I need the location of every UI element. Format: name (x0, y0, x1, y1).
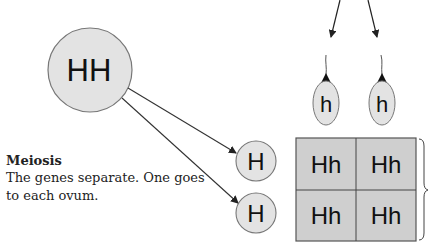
punnett-square: Hh Hh Hh Hh (296, 138, 416, 241)
ovum-allele: H (247, 200, 264, 227)
caption: Meiosis The genes separate. One goes to … (6, 153, 206, 205)
arrow-to-sperm-left (331, 0, 340, 37)
ovum-allele: H (247, 148, 264, 175)
parent-genotype: HH (67, 53, 112, 88)
sperm-cell-right: h (369, 55, 395, 125)
sperm-cell-left: h (313, 55, 339, 125)
sperm-allele: h (376, 92, 388, 117)
genetics-diagram: HH h h H H Hh Hh Hh Hh (0, 0, 428, 251)
punnett-cell: Hh (311, 151, 342, 178)
ovum-top: H (236, 141, 276, 181)
punnett-cell: Hh (371, 202, 402, 229)
brace (419, 139, 428, 240)
ovum-bottom: H (236, 193, 276, 233)
punnett-cell: Hh (311, 202, 342, 229)
parent-cell: HH (48, 28, 132, 112)
arrow-to-ovum-top (128, 88, 236, 153)
arrow-to-sperm-right (368, 0, 377, 37)
caption-title: Meiosis (6, 153, 206, 169)
caption-body: The genes separate. One goes to each ovu… (6, 169, 206, 205)
punnett-cell: Hh (371, 151, 402, 178)
sperm-allele: h (320, 92, 332, 117)
